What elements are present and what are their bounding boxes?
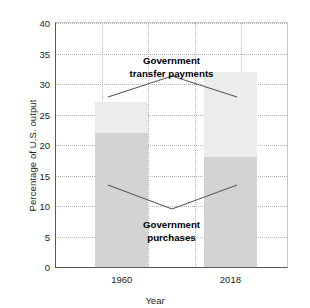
annotation-transfer-payments-line2: transfer payments bbox=[56, 68, 287, 81]
y-tick-label-10: 10 bbox=[39, 201, 50, 212]
y-tick-label-0: 0 bbox=[45, 262, 50, 273]
annotation-transfer-payments-line1: Government bbox=[56, 55, 287, 68]
y-tick-label-20: 20 bbox=[39, 140, 50, 151]
annotation-transfer-payments: Government transfer payments bbox=[56, 55, 287, 80]
y-axis-title: Percentage of U.S. output bbox=[27, 61, 38, 251]
chart-container: Percentage of U.S. output bbox=[0, 0, 310, 308]
y-tick-label-35: 35 bbox=[39, 48, 50, 59]
plot-area: Government transfer payments Government … bbox=[55, 22, 288, 268]
bar-segment-purchases-1960[interactable] bbox=[95, 133, 148, 267]
annotation-purchases: Government purchases bbox=[56, 219, 287, 244]
gridline-40 bbox=[56, 23, 287, 24]
y-tick-label-40: 40 bbox=[39, 18, 50, 29]
bar-segment-transfers-1960[interactable] bbox=[95, 102, 148, 133]
annotation-purchases-line1: Government bbox=[56, 219, 287, 232]
annotation-purchases-line2: purchases bbox=[56, 232, 287, 245]
bar-segment-transfers-2018[interactable] bbox=[204, 72, 257, 157]
y-tick-label-30: 30 bbox=[39, 79, 50, 90]
x-tick-label-1960: 1960 bbox=[111, 274, 132, 285]
y-tick-label-15: 15 bbox=[39, 170, 50, 181]
plot-inner: Government transfer payments Government … bbox=[56, 23, 287, 267]
y-tick-label-25: 25 bbox=[39, 109, 50, 120]
y-tick-label-5: 5 bbox=[45, 231, 50, 242]
x-tick-label-2018: 2018 bbox=[220, 274, 241, 285]
x-axis-title: Year bbox=[0, 295, 310, 306]
bar-segment-purchases-2018[interactable] bbox=[204, 157, 257, 267]
